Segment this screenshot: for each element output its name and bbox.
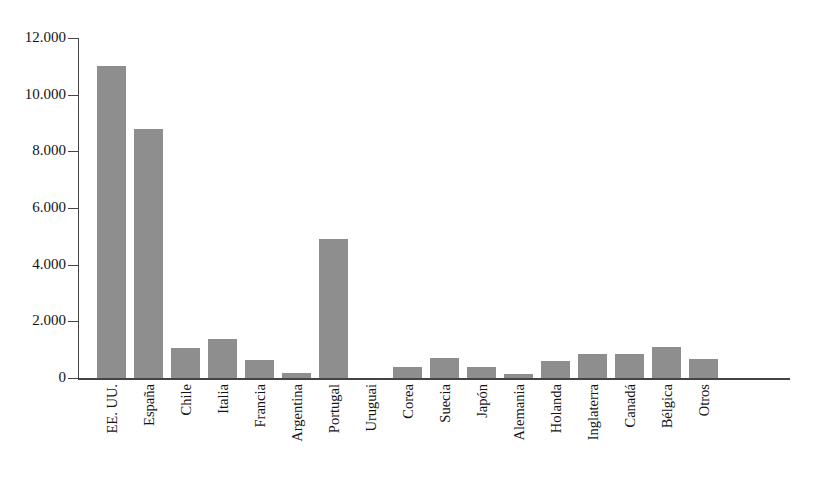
y-axis-tick-label-wrap: 10.000 [0, 87, 66, 102]
bar [393, 367, 422, 378]
bar-slot [315, 38, 352, 378]
x-axis-label: Italia [215, 384, 230, 414]
bar-chart: 02.0004.0006.0008.00010.00012.000 EE. UU… [0, 0, 823, 480]
x-axis-label: Alemania [511, 384, 526, 440]
x-axis-label: Japón [474, 384, 489, 418]
x-axis-label-slot: Japón [463, 382, 500, 480]
x-axis-label-slot: Bélgica [648, 382, 685, 480]
bar-slot [426, 38, 463, 378]
x-axis-label: Corea [400, 384, 415, 419]
x-axis-label: Inglaterra [585, 384, 600, 440]
bar [541, 361, 570, 378]
bar-slot [241, 38, 278, 378]
y-axis-tick-label-wrap: 12.000 [0, 30, 66, 45]
y-axis-tick-label-wrap: 0 [0, 370, 66, 385]
y-axis-tick-label: 2.000 [4, 313, 66, 328]
x-axis-label: Uruguai [363, 384, 378, 432]
y-axis-tick-label: 12.000 [4, 30, 66, 45]
x-axis-labels: EE. UU.EspañaChileItaliaFranciaArgentina… [78, 382, 790, 480]
bar [689, 359, 718, 378]
x-axis-label-slot: Alemania [500, 382, 537, 480]
x-axis-label-slot: Corea [389, 382, 426, 480]
y-axis-tick-label-wrap: 4.000 [0, 257, 66, 272]
x-axis-label: Francia [252, 384, 267, 427]
y-axis-tick-label: 4.000 [4, 257, 66, 272]
chart-title-remnant [0, 0, 823, 2]
x-axis-label-slot: Argentina [278, 382, 315, 480]
x-axis-label: Suecia [437, 384, 452, 423]
bar [245, 360, 274, 378]
x-axis-label: España [141, 384, 156, 426]
bar-slot [611, 38, 648, 378]
y-axis-tick-label: 10.000 [4, 87, 66, 102]
y-axis-tick-label-wrap: 2.000 [0, 313, 66, 328]
bar [430, 358, 459, 378]
x-axis-label-slot: Francia [241, 382, 278, 480]
x-axis-label: Portugal [326, 384, 341, 433]
x-axis-label: Argentina [289, 384, 304, 442]
x-axis-label: Canadá [622, 384, 637, 427]
bar-slot [389, 38, 426, 378]
bar [134, 129, 163, 378]
bar [615, 354, 644, 378]
bar-slot [463, 38, 500, 378]
bar-slot [93, 38, 130, 378]
x-axis-label-slot: España [130, 382, 167, 480]
y-axis-tick-label-wrap: 6.000 [0, 200, 66, 215]
bar-slot [204, 38, 241, 378]
x-axis-label: Holanda [548, 384, 563, 433]
x-axis-label-slot: Holanda [537, 382, 574, 480]
x-axis-label-slot: Portugal [315, 382, 352, 480]
x-axis-label-slot: Inglaterra [574, 382, 611, 480]
y-axis-tick [68, 378, 79, 379]
x-axis-line [78, 378, 790, 380]
bar [467, 367, 496, 378]
bar [319, 239, 348, 378]
bar-slot [278, 38, 315, 378]
x-axis-label: Bélgica [659, 384, 674, 428]
bar-slot [574, 38, 611, 378]
bar-series [78, 38, 790, 378]
x-axis-label-slot: Italia [204, 382, 241, 480]
x-axis-label: Otros [696, 384, 711, 416]
bar [97, 66, 126, 378]
x-axis-label-slot: Otros [685, 382, 722, 480]
bar [578, 354, 607, 378]
bar [208, 339, 237, 378]
x-axis-label-slot: EE. UU. [93, 382, 130, 480]
x-axis-label-slot: Canadá [611, 382, 648, 480]
bar-slot [648, 38, 685, 378]
bar [504, 374, 533, 378]
x-axis-label-slot: Uruguai [352, 382, 389, 480]
bar-slot [685, 38, 722, 378]
x-axis-label: Chile [178, 384, 193, 415]
bar [282, 373, 311, 378]
x-axis-label-slot: Suecia [426, 382, 463, 480]
y-axis-tick-label: 0 [4, 370, 66, 385]
bar-slot [167, 38, 204, 378]
bar-slot [537, 38, 574, 378]
bar [652, 347, 681, 378]
bar-slot [352, 38, 389, 378]
y-axis-tick-label: 8.000 [4, 143, 66, 158]
x-axis-label: EE. UU. [104, 384, 119, 434]
bar-slot [500, 38, 537, 378]
y-axis-tick-label-wrap: 8.000 [0, 143, 66, 158]
x-axis-label-slot: Chile [167, 382, 204, 480]
bar-slot [130, 38, 167, 378]
y-axis-tick-label: 6.000 [4, 200, 66, 215]
bar [171, 348, 200, 378]
